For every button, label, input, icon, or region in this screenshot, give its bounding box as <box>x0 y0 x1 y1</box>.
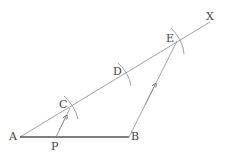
arrow-pc <box>59 117 66 130</box>
label-p: P <box>51 141 58 152</box>
label-c: C <box>59 99 67 110</box>
ray-ax <box>20 22 210 137</box>
label-b: B <box>131 131 139 142</box>
label-e: E <box>166 33 174 44</box>
label-a: A <box>9 131 17 142</box>
label-x: X <box>206 11 214 22</box>
diagram-canvas: A B P C D E X <box>0 0 226 157</box>
label-d: D <box>113 66 122 77</box>
arrow-be <box>145 85 155 105</box>
construction-svg <box>0 0 226 157</box>
